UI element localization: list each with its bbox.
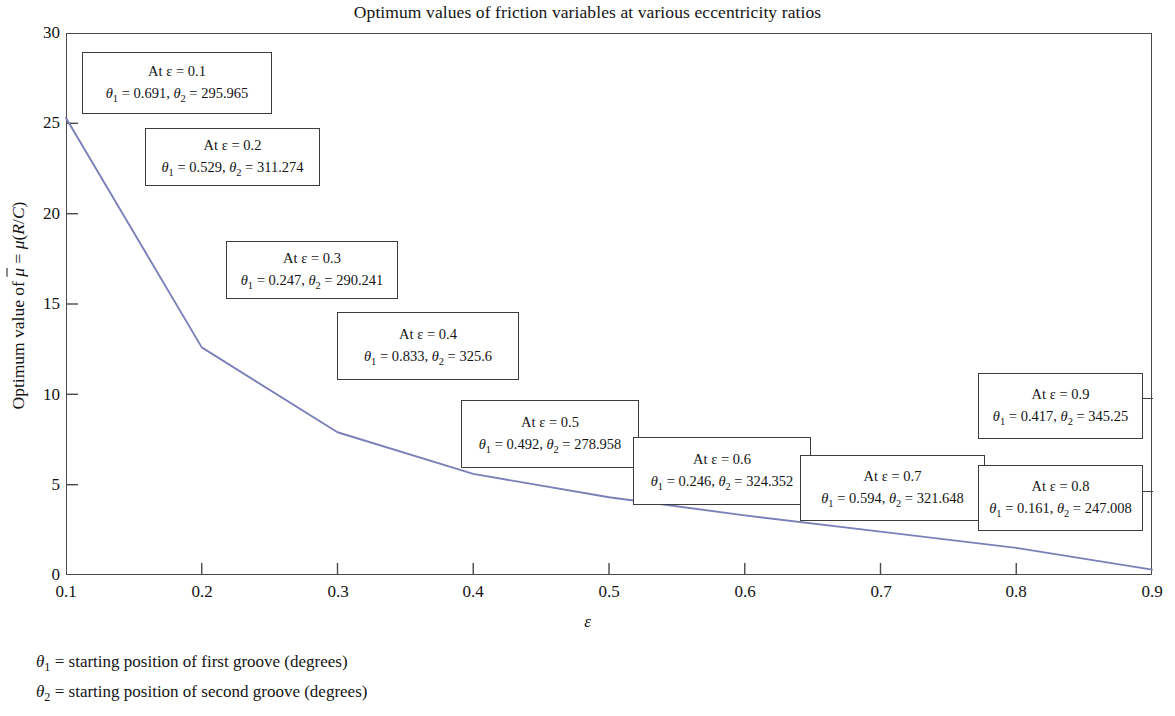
annotation-box-eps-0-7: At ε = 0.7 θ1 = 0.594, θ2 = 321.648 [800, 455, 985, 521]
annotation-theta-values: θ1 = 0.246, θ2 = 324.352 [651, 470, 794, 495]
annotation-theta-values: θ1 = 0.417, θ2 = 345.25 [993, 405, 1128, 430]
x-tick-0-4: 0.4 [438, 582, 508, 602]
theta1-value: 0.161 [1017, 500, 1050, 516]
footnote-theta1-text: = starting position of first groove (deg… [55, 652, 348, 671]
annotation-eps-label: At ε = 0.3 [283, 247, 341, 269]
theta1-value: 0.594 [849, 490, 882, 506]
leader-line-eps-0-8 [1143, 491, 1153, 492]
y-tick-15: 15 [8, 294, 60, 314]
theta1-value: 0.417 [1021, 408, 1054, 424]
theta2-value: 290.241 [336, 272, 383, 288]
annotation-theta-values: θ1 = 0.833, θ2 = 325.6 [364, 345, 492, 370]
theta1-value: 0.247 [269, 272, 302, 288]
theta2-value: 345.25 [1088, 408, 1128, 424]
footnotes: θ1 = starting position of first groove (… [36, 648, 367, 708]
x-tick-0-2: 0.2 [167, 582, 237, 602]
theta1-value: 0.492 [507, 436, 540, 452]
annotation-box-eps-0-3: At ε = 0.3 θ1 = 0.247, θ2 = 290.241 [226, 241, 398, 299]
annotation-eps-label: At ε = 0.5 [521, 411, 579, 433]
annotation-box-eps-0-2: At ε = 0.2 θ1 = 0.529, θ2 = 311.274 [145, 128, 320, 186]
annotation-eps-label: At ε = 0.7 [864, 465, 922, 487]
annotation-eps-label: At ε = 0.9 [1032, 383, 1090, 405]
y-tick-25: 25 [8, 113, 60, 133]
annotation-eps-label: At ε = 0.4 [399, 323, 457, 345]
y-tick-5: 5 [8, 475, 60, 495]
footnote-theta2-text: = starting position of second groove (de… [55, 682, 368, 701]
theta2-value: 325.6 [459, 348, 492, 364]
footnote-theta1: θ1 = starting position of first groove (… [36, 648, 367, 678]
y-tick-10: 10 [8, 385, 60, 405]
annotation-theta-values: θ1 = 0.691, θ2 = 295.965 [106, 82, 249, 107]
y-tick-20: 20 [8, 204, 60, 224]
annotation-theta-values: θ1 = 0.529, θ2 = 311.274 [161, 156, 303, 181]
theta1-value: 0.691 [134, 85, 167, 101]
theta2-value: 278.958 [574, 436, 621, 452]
annotation-box-eps-0-1: At ε = 0.1 θ1 = 0.691, θ2 = 295.965 [82, 52, 272, 114]
theta1-value: 0.246 [679, 473, 712, 489]
annotation-box-eps-0-8: At ε = 0.8 θ1 = 0.161, θ2 = 247.008 [978, 465, 1143, 531]
annotation-eps-label: At ε = 0.2 [204, 134, 262, 156]
y-tick-marks [66, 123, 78, 484]
x-tick-0-6: 0.6 [710, 582, 780, 602]
annotation-eps-label: At ε = 0.1 [148, 60, 206, 82]
theta2-value: 247.008 [1085, 500, 1132, 516]
x-tick-0-9: 0.9 [1117, 582, 1175, 602]
leader-line-eps-0-9 [1143, 398, 1153, 399]
annotation-box-eps-0-6: At ε = 0.6 θ1 = 0.246, θ2 = 324.352 [633, 437, 811, 505]
annotation-box-eps-0-4: At ε = 0.4 θ1 = 0.833, θ2 = 325.6 [337, 312, 519, 380]
annotation-theta-values: θ1 = 0.161, θ2 = 247.008 [989, 497, 1132, 522]
annotation-box-eps-0-5: At ε = 0.5 θ1 = 0.492, θ2 = 278.958 [461, 400, 639, 468]
x-tick-0-1: 0.1 [31, 582, 101, 602]
y-tick-30: 30 [8, 23, 60, 43]
x-tick-0-7: 0.7 [846, 582, 916, 602]
x-tick-marks [202, 563, 1017, 575]
x-tick-0-3: 0.3 [303, 582, 373, 602]
x-tick-0-5: 0.5 [574, 582, 644, 602]
y-axis-ticks: 30 25 20 15 10 5 0 [0, 0, 60, 716]
chart-figure: Optimum values of friction variables at … [0, 0, 1175, 716]
chart-title: Optimum values of friction variables at … [0, 2, 1175, 23]
theta2-value: 324.352 [746, 473, 793, 489]
theta2-value: 295.965 [201, 85, 248, 101]
theta1-value: 0.529 [189, 159, 222, 175]
annotation-theta-values: θ1 = 0.492, θ2 = 278.958 [479, 433, 622, 458]
annotation-box-eps-0-9: At ε = 0.9 θ1 = 0.417, θ2 = 345.25 [978, 373, 1143, 439]
theta2-value: 311.274 [257, 159, 304, 175]
x-tick-0-8: 0.8 [981, 582, 1051, 602]
annotation-eps-label: At ε = 0.6 [693, 448, 751, 470]
theta2-value: 321.648 [917, 490, 964, 506]
annotation-theta-values: θ1 = 0.247, θ2 = 290.241 [241, 269, 384, 294]
theta1-value: 0.833 [392, 348, 425, 364]
annotation-theta-values: θ1 = 0.594, θ2 = 321.648 [821, 487, 964, 512]
annotation-eps-label: At ε = 0.8 [1032, 475, 1090, 497]
x-axis-label: ε [0, 612, 1175, 632]
footnote-theta2: θ2 = starting position of second groove … [36, 678, 367, 708]
